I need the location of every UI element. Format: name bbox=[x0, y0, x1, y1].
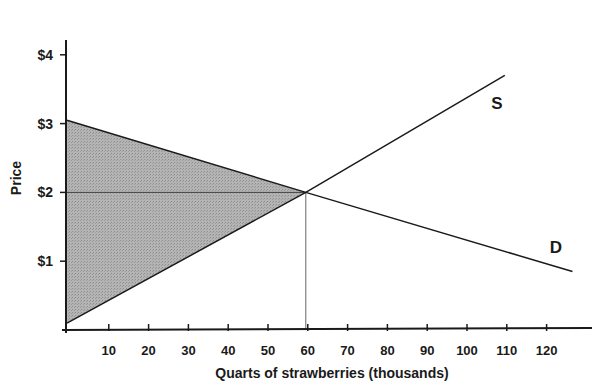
x-tick-label: 40 bbox=[221, 343, 235, 358]
x-tick-label: 70 bbox=[340, 343, 354, 358]
x-tick-label: 120 bbox=[536, 343, 558, 358]
x-axis bbox=[62, 328, 592, 330]
y-axis-label: Price bbox=[8, 161, 24, 195]
y-tick-label: $3 bbox=[37, 116, 53, 132]
supply-curve-label: S bbox=[491, 94, 502, 113]
x-tick-label: 100 bbox=[456, 343, 478, 358]
surplus-triangle bbox=[67, 120, 306, 323]
y-tick-label: $4 bbox=[37, 47, 53, 63]
x-tick-label: 50 bbox=[261, 343, 275, 358]
x-tick-label: 30 bbox=[181, 343, 195, 358]
x-tick-label: 20 bbox=[141, 343, 155, 358]
x-tick-label: 10 bbox=[102, 343, 116, 358]
surplus-shaded-region bbox=[67, 120, 306, 323]
x-tick-label: 90 bbox=[420, 343, 434, 358]
x-axis-label: Quarts of strawberries (thousands) bbox=[215, 365, 448, 381]
supply-demand-chart: 102030405060708090100110120 $1$2$3$4 Qua… bbox=[0, 0, 598, 382]
x-tick-label: 60 bbox=[301, 343, 315, 358]
y-tick-labels: $1$2$3$4 bbox=[37, 47, 67, 269]
y-tick-label: $1 bbox=[37, 253, 53, 269]
demand-curve-label: D bbox=[550, 238, 562, 257]
y-tick-label: $2 bbox=[37, 184, 53, 200]
x-tick-label: 110 bbox=[496, 343, 517, 358]
x-tick-label: 80 bbox=[380, 343, 394, 358]
